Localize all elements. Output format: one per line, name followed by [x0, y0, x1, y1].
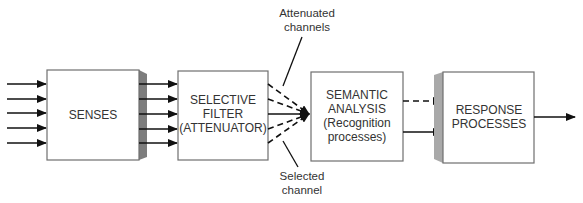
senses-box: SENSES	[47, 70, 147, 160]
filter-label-line2: FILTER	[203, 107, 244, 121]
selected-label-line1: Selected	[280, 170, 325, 182]
input-arrows	[7, 84, 46, 143]
attention-filter-diagram: SENSES SELECTIVE FILTER (ATTENUATOR) Att…	[0, 0, 583, 203]
filter-label-line3: (ATTENUATOR)	[179, 121, 266, 135]
response-processes-box: RESPONSE PROCESSES	[434, 72, 534, 163]
attenuated-pointer-line	[283, 37, 302, 86]
attenuated-channel-arrow	[268, 114, 309, 143]
filter-to-semantic-arrows	[268, 84, 309, 143]
attenuated-channel-arrow	[268, 114, 309, 129]
attenuated-label-line2: channels	[284, 21, 330, 33]
attenuated-channel-arrow	[268, 99, 309, 114]
selected-label-line2: channel	[282, 184, 322, 196]
filter-label-line1: SELECTIVE	[190, 93, 256, 107]
response-box-shadow	[434, 72, 443, 163]
selected-pointer-line	[283, 141, 298, 167]
semantic-analysis-box: SEMANTIC ANALYSIS (Recognition processes…	[311, 72, 403, 161]
semantic-label-line4: processes)	[328, 130, 387, 144]
semantic-label-line1: SEMANTIC	[326, 88, 388, 102]
selected-channel-callout: Selected channel	[280, 170, 325, 196]
response-label-line2: PROCESSES	[452, 117, 527, 131]
attenuated-channel-arrow	[268, 84, 309, 114]
attenuated-label-line1: Attenuated	[279, 7, 335, 19]
response-label-line1: RESPONSE	[456, 103, 523, 117]
selective-filter-box: SELECTIVE FILTER (ATTENUATOR)	[178, 71, 268, 160]
attenuated-channels-callout: Attenuated channels	[279, 7, 335, 33]
semantic-label-line3: (Recognition	[323, 116, 390, 130]
senses-label: SENSES	[69, 108, 118, 122]
semantic-label-line2: ANALYSIS	[328, 102, 386, 116]
